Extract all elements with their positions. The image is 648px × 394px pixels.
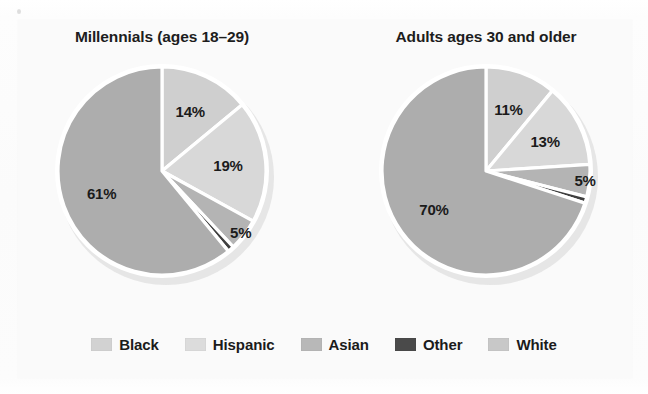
pie-chart-millennials: 14%19%5%61% — [47, 58, 277, 288]
pie-svg-adults — [371, 58, 601, 288]
legend-swatch-black — [91, 338, 112, 351]
pie-slice-label-white: 70% — [419, 200, 448, 217]
legend-item-asian: Asian — [301, 336, 369, 353]
pie-slice-label-asian: 5% — [574, 172, 595, 189]
pie-slice-label-asian: 5% — [230, 223, 251, 240]
pie-slice-label-black: 14% — [176, 102, 205, 119]
legend-swatch-asian — [301, 338, 322, 351]
legend-label-asian: Asian — [329, 336, 369, 353]
pie-slice-label-white: 61% — [87, 184, 116, 201]
chart-legend: Black Hispanic Asian Other White — [0, 336, 648, 353]
chart-title-millennials: Millennials (ages 18–29) — [0, 28, 324, 46]
pie-panel-adults: Adults ages 30 and older 11%13%5%70% — [324, 0, 648, 330]
pie-slice-label-hispanic: 19% — [213, 156, 242, 173]
legend-item-white: White — [488, 336, 556, 353]
pie-slice-label-black: 11% — [494, 100, 523, 117]
pie-slice-label-hispanic: 13% — [530, 132, 559, 149]
legend-item-black: Black — [91, 336, 159, 353]
pie-chart-adults: 11%13%5%70% — [371, 58, 601, 288]
legend-item-other: Other — [395, 336, 463, 353]
legend-swatch-other — [395, 338, 416, 351]
figure-canvas: Millennials (ages 18–29) 14%19%5%61% Adu… — [0, 0, 648, 394]
legend-swatch-white — [488, 338, 509, 351]
legend-label-white: White — [516, 336, 556, 353]
chart-title-adults: Adults ages 30 and older — [324, 28, 648, 46]
legend-label-black: Black — [119, 336, 159, 353]
pie-panel-millennials: Millennials (ages 18–29) 14%19%5%61% — [0, 0, 324, 330]
legend-label-other: Other — [423, 336, 463, 353]
legend-swatch-hispanic — [185, 338, 206, 351]
legend-label-hispanic: Hispanic — [213, 336, 275, 353]
legend-item-hispanic: Hispanic — [185, 336, 275, 353]
